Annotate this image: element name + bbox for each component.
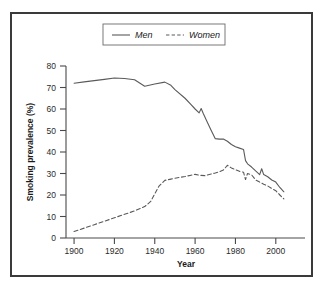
figure-root: 01020304050607080 Smoking prevalence (%)… <box>0 0 333 293</box>
series-line-women <box>74 165 284 231</box>
legend-label-men: Men <box>135 30 153 40</box>
y-tick-label: 30 <box>47 169 57 179</box>
y-tick-label: 10 <box>47 212 57 222</box>
x-axis-title: Year <box>177 259 196 269</box>
x-axis-ticks: 190019201940196019802000 <box>65 238 286 256</box>
y-tick-label: 50 <box>47 126 57 136</box>
y-axis-group: 01020304050607080 Smoking prevalence (%) <box>25 61 66 243</box>
series-line-men <box>74 78 284 192</box>
y-tick-label: 60 <box>47 104 57 114</box>
x-tick-label: 1900 <box>65 246 84 256</box>
x-tick-label: 1920 <box>105 246 124 256</box>
data-series-group <box>74 78 284 232</box>
x-axis-group: 190019201940196019802000 Year <box>65 238 305 269</box>
y-tick-label: 20 <box>47 190 57 200</box>
x-tick-label: 1940 <box>145 246 164 256</box>
y-tick-label: 70 <box>47 83 57 93</box>
y-tick-label: 80 <box>47 61 57 71</box>
y-tick-label: 0 <box>51 233 56 243</box>
x-tick-label: 2000 <box>266 246 285 256</box>
chart-legend: Men Women <box>103 24 225 45</box>
x-tick-label: 1980 <box>226 246 245 256</box>
y-axis-ticks: 01020304050607080 <box>47 61 66 243</box>
x-tick-label: 1960 <box>186 246 205 256</box>
legend-label-women: Women <box>189 30 220 40</box>
y-axis-title: Smoking prevalence (%) <box>25 103 35 201</box>
smoking-prevalence-line-chart: 01020304050607080 Smoking prevalence (%)… <box>0 0 333 293</box>
y-tick-label: 40 <box>47 147 57 157</box>
